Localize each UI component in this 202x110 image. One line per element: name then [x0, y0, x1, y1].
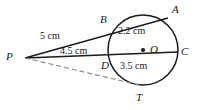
- point-label-t: T: [136, 92, 142, 103]
- measure-label-ba: 2.2 cm: [118, 26, 145, 36]
- measure-label-pd: 4.5 cm: [60, 46, 87, 56]
- point-label-d: D: [101, 60, 109, 71]
- center-dot-o: [141, 48, 145, 52]
- geometry-figure: P A B C D T O 5 cm 4.5 cm 2.2 cm 3.5 cm: [0, 0, 202, 110]
- point-label-a: A: [172, 4, 179, 15]
- point-label-o: O: [150, 44, 158, 55]
- measure-label-pb: 5 cm: [40, 31, 60, 41]
- measure-label-dc: 3.5 cm: [120, 61, 147, 71]
- point-label-b: B: [100, 14, 107, 25]
- point-label-p: P: [6, 51, 13, 62]
- point-label-c: C: [181, 46, 188, 57]
